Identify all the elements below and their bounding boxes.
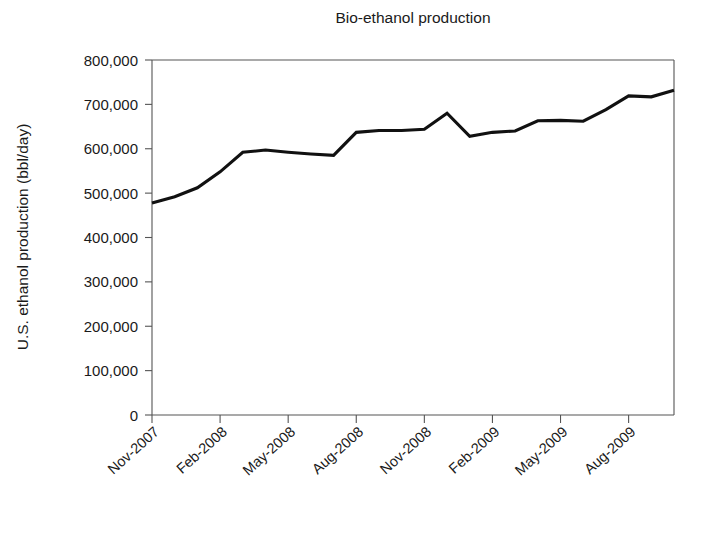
x-tick-labels: Nov-2007Feb-2008May-2008Aug-2008Nov-2008… xyxy=(105,423,639,478)
y-tick-label: 700,000 xyxy=(84,96,138,113)
y-tick-label: 0 xyxy=(130,407,138,424)
y-tick-label: 300,000 xyxy=(84,273,138,290)
y-axis-label: U.S. ethanol production (bbl/day) xyxy=(14,124,31,351)
y-tick-label: 100,000 xyxy=(84,362,138,379)
y-tick-label: 800,000 xyxy=(84,52,138,69)
y-tick-labels: 0100,000200,000300,000400,000500,000600,… xyxy=(84,52,138,424)
y-tick-label: 400,000 xyxy=(84,229,138,246)
x-tick-label: May-2009 xyxy=(512,423,571,478)
y-tick-label: 500,000 xyxy=(84,185,138,202)
y-tick-label: 600,000 xyxy=(84,140,138,157)
bio-ethanol-line-chart: Bio-ethanol production U.S. ethanol prod… xyxy=(0,0,710,533)
x-tick-label: Aug-2009 xyxy=(581,423,638,477)
x-tick-marks xyxy=(152,415,629,423)
x-tick-label: Nov-2007 xyxy=(105,423,162,477)
x-tick-label: Feb-2008 xyxy=(173,423,230,476)
y-tick-marks xyxy=(145,60,152,415)
chart-figure: Bio-ethanol production U.S. ethanol prod… xyxy=(0,0,710,533)
x-tick-label: Aug-2008 xyxy=(309,423,366,477)
x-tick-label: Nov-2008 xyxy=(377,423,434,477)
data-series-line xyxy=(152,90,674,203)
x-tick-label: May-2008 xyxy=(240,423,299,478)
y-tick-label: 200,000 xyxy=(84,318,138,335)
x-tick-label: Feb-2009 xyxy=(446,423,503,476)
chart-title: Bio-ethanol production xyxy=(335,9,490,26)
y-axis-label-text: U.S. ethanol production (bbl/day) xyxy=(14,124,31,351)
